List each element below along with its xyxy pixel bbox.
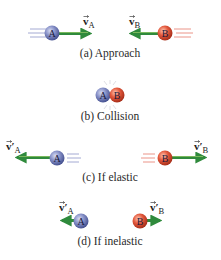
svg-text:A: A <box>48 28 56 39</box>
svg-text:B: B <box>114 90 121 101</box>
ball-b: B <box>133 214 148 229</box>
velocity-label-b: vB <box>129 15 141 30</box>
velocity-arrow-b <box>171 157 205 158</box>
ball-a: A <box>45 26 60 41</box>
caption-b: (b) Collision <box>81 110 140 123</box>
velocity-arrow-b <box>131 33 159 34</box>
caption-a: (a) Approach <box>80 47 141 60</box>
motion-lines-a <box>67 154 81 162</box>
svg-text:B: B <box>162 153 169 164</box>
velocity-arrow-a <box>58 33 90 34</box>
ball-a: A <box>50 151 65 166</box>
velocity-label-a: v′A <box>59 201 75 216</box>
ball-b: B <box>110 88 125 103</box>
motion-lines-b <box>174 29 193 37</box>
velocity-label-b: v′B <box>150 201 165 216</box>
velocity-label-a: vA <box>83 15 96 30</box>
ball-b: B <box>158 26 173 41</box>
ball-a: A <box>74 214 89 229</box>
panel-a-approach: A vA B vB (a) Approach <box>28 15 193 60</box>
svg-text:A: A <box>99 90 107 101</box>
motion-lines-a <box>28 29 47 37</box>
panel-c-elastic: A v′A B v′B (c) If elastic <box>6 140 209 184</box>
caption-c: (c) If elastic <box>82 171 138 184</box>
velocity-label-a: v′A <box>6 140 22 155</box>
collision-diagram: A vA B vB (a) Approach <box>0 0 221 260</box>
ball-b: B <box>158 151 173 166</box>
caption-d: (d) If inelastic <box>77 235 142 248</box>
svg-text:A: A <box>77 216 85 227</box>
velocity-label-b: v′B <box>194 140 209 155</box>
panel-d-inelastic: A v′A B v′B (d) If inelastic <box>59 201 165 248</box>
panel-b-collision: A B (b) Collision <box>81 80 140 123</box>
svg-text:A: A <box>53 153 61 164</box>
ball-a: A <box>96 88 111 103</box>
motion-lines-b <box>141 154 155 162</box>
svg-text:B: B <box>162 28 169 39</box>
svg-text:B: B <box>137 216 144 227</box>
velocity-arrow-a <box>17 157 51 158</box>
